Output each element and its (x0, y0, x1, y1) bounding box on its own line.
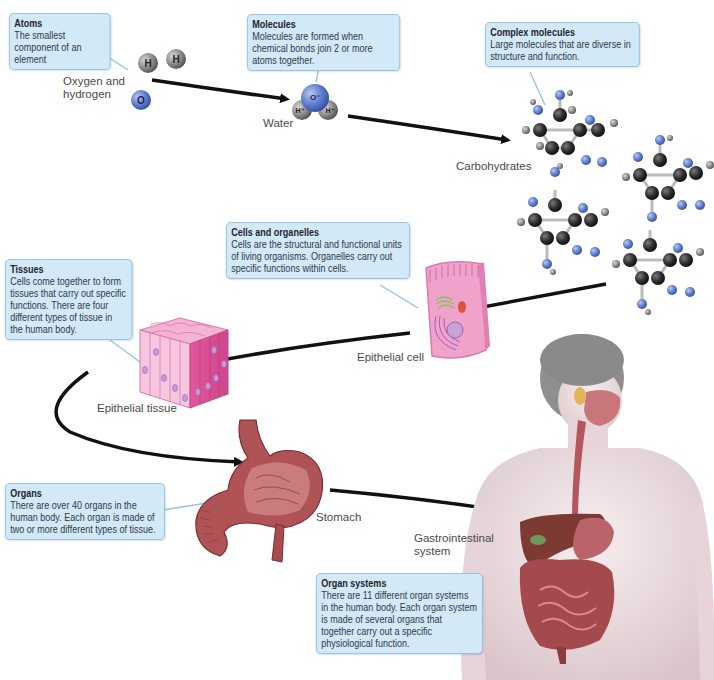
callout-tissues: Tissues Cells come together to form tiss… (5, 259, 132, 340)
callout-cells-title: Cells and organelles (231, 226, 405, 238)
svg-text:H: H (172, 54, 179, 65)
callout-organs-title: Organs (10, 487, 160, 499)
callout-tissues-title: Tissues (10, 263, 127, 275)
arrow-water-to-carbohydrates (348, 116, 507, 140)
flow-arrows (56, 80, 606, 512)
label-carbohydrates: Carbohydrates (456, 160, 531, 173)
svg-text:O⁻: O⁻ (310, 93, 320, 102)
label-gastrointestinal-system: Gastrointestinal system (414, 532, 494, 558)
human-gi-system-illustration (461, 334, 714, 680)
callout-tissues-body: Cells come together to form tissues that… (10, 275, 127, 335)
callout-molecules-body: Molecules are formed when chemical bonds… (252, 30, 395, 66)
water-molecule-illustration: O⁻ H⁺ H⁺ (292, 84, 338, 120)
callout-atoms-title: Atoms (14, 17, 105, 29)
callout-complex-molecules-body: Large molecules that are diverse in stru… (490, 38, 634, 62)
callout-organ-systems: Organ systems There are 11 different org… (316, 573, 483, 654)
epithelial-tissue-illustration (140, 318, 228, 408)
svg-text:H: H (144, 58, 151, 69)
callout-organs-body: There are over 40 organs in the human bo… (10, 499, 160, 535)
callout-atoms-body: The smallest component of an element (14, 29, 105, 65)
callout-cells-organelles: Cells and organelles Cells are the struc… (226, 222, 410, 279)
svg-text:H⁺: H⁺ (295, 107, 304, 114)
label-epithelial-cell: Epithelial cell (357, 351, 424, 364)
callout-cells-body: Cells are the structural and functional … (231, 238, 405, 274)
callout-organ-systems-body: There are 11 different organ systems in … (321, 589, 478, 649)
callout-organs: Organs There are over 40 organs in the h… (5, 483, 165, 540)
label-epithelial-tissue: Epithelial tissue (97, 402, 177, 415)
label-oxygen-hydrogen: Oxygen and hydrogen (63, 75, 125, 101)
label-stomach: Stomach (316, 511, 361, 524)
callout-molecules: Molecules Molecules are formed when chem… (247, 14, 400, 71)
svg-text:O: O (137, 95, 145, 106)
stomach-illustration (196, 420, 323, 562)
callout-molecules-title: Molecules (252, 18, 395, 30)
carbohydrate-molecules-illustration (517, 90, 714, 315)
svg-text:H⁺: H⁺ (325, 107, 334, 114)
epithelial-cell-illustration (426, 262, 490, 358)
callout-organ-systems-title: Organ systems (321, 577, 478, 589)
callout-complex-molecules: Complex molecules Large molecules that a… (485, 22, 640, 67)
label-water: Water (263, 117, 293, 130)
callout-atoms: Atoms The smallest component of an eleme… (9, 13, 110, 70)
arrow-atoms-to-water (152, 80, 286, 99)
callout-complex-molecules-title: Complex molecules (490, 26, 634, 38)
